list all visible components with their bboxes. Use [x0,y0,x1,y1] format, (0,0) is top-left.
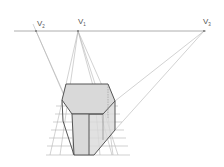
vanishing-point-v2 [35,30,37,32]
hexagonal-prism [62,84,115,155]
label-v2: V2 [37,19,45,29]
vanishing-point-v3 [203,30,205,32]
prism-top-face [62,84,115,114]
vanishing-point-v1 [77,30,79,32]
prism-front-face [72,114,89,155]
construction-lines-v3 [115,31,204,130]
label-v3: V3 [203,17,211,27]
label-v1: V1 [78,17,86,27]
perspective-diagram: V2 V1 V3 [0,0,224,167]
